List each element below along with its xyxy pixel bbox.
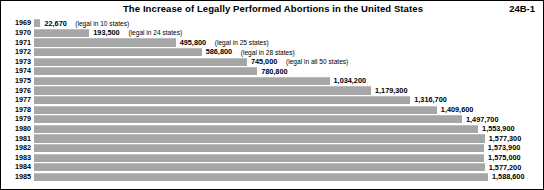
year-label: 1982 [7, 143, 31, 152]
bar [34, 96, 410, 104]
year-label: 1979 [7, 114, 31, 123]
chart-title: The Increase of Legally Performed Aborti… [1, 3, 544, 14]
bar-value-label: 1,034,200 [334, 76, 366, 85]
bar-row: 1970193,500(legal in 24 states) [1, 28, 544, 38]
bar-row: 19811,577,300 [1, 133, 544, 143]
bar-value-label: 22,670 [44, 19, 66, 28]
bar-row: 196922,670(legal in 10 states) [1, 18, 544, 28]
year-label: 1980 [7, 124, 31, 133]
bar [34, 77, 330, 85]
bar [34, 173, 488, 181]
bar-value-label: 1,577,200 [489, 163, 521, 172]
bar-row: 19751,034,200 [1, 76, 544, 86]
year-label: 1978 [7, 105, 31, 114]
year-label: 1972 [7, 47, 31, 56]
bar-row: 19781,409,600 [1, 104, 544, 114]
bar-annotation-label: (legal in 28 states) [241, 48, 295, 57]
bar-row: 19801,553,900 [1, 124, 544, 134]
year-label: 1984 [7, 162, 31, 171]
bar-row: 19791,497,700 [1, 114, 544, 124]
year-label: 1970 [7, 28, 31, 37]
bar-row: 1973745,000(legal in all 50 states) [1, 56, 544, 66]
bar [34, 29, 89, 37]
bar-row: 19821,573,900 [1, 143, 544, 153]
bar [34, 106, 437, 114]
bar-annotation-label: (legal in 25 states) [215, 38, 269, 47]
bar-row: 1974780,800 [1, 66, 544, 76]
year-label: 1976 [7, 86, 31, 95]
bar-value-label: 1,575,000 [488, 153, 520, 162]
year-label: 1974 [7, 66, 31, 75]
bar [34, 134, 485, 142]
year-label: 1969 [7, 18, 31, 27]
bar-rows: 196922,670(legal in 10 states)1970193,50… [1, 18, 544, 181]
bar-annotation-label: (legal in 10 states) [75, 19, 129, 28]
year-label: 1975 [7, 76, 31, 85]
bar-value-label: 1,573,900 [488, 143, 520, 152]
bar-value-label: 586,800 [206, 47, 232, 56]
bar-value-label: 1,497,700 [466, 115, 498, 124]
bar [34, 19, 40, 27]
bar-row: 1972586,800(legal in 28 states) [1, 47, 544, 57]
bar [34, 125, 478, 133]
bar [34, 58, 247, 66]
bar [34, 48, 202, 56]
bar [34, 154, 484, 162]
bar-value-label: 745,000 [251, 57, 277, 66]
bar-row: 19771,316,700 [1, 95, 544, 105]
bar-annotation-label: (legal in all 50 states) [286, 57, 348, 66]
bar [34, 115, 462, 123]
year-label: 1971 [7, 38, 31, 47]
bar [34, 163, 485, 171]
year-label: 1981 [7, 134, 31, 143]
bar-row: 19841,577,200 [1, 162, 544, 172]
chart-container: The Increase of Legally Performed Aborti… [0, 0, 544, 190]
chart-header: The Increase of Legally Performed Aborti… [1, 3, 544, 16]
bar [34, 38, 176, 46]
bar-annotation-label: (legal in 24 states) [128, 28, 182, 37]
bar-value-label: 1,553,900 [482, 124, 514, 133]
year-label: 1973 [7, 57, 31, 66]
bar-value-label: 193,500 [93, 28, 119, 37]
bar-row: 19831,575,000 [1, 152, 544, 162]
bar [34, 144, 484, 152]
bar [34, 86, 371, 94]
year-label: 1977 [7, 95, 31, 104]
bar-value-label: 495,800 [180, 38, 206, 47]
bar-value-label: 1,409,600 [441, 105, 473, 114]
year-label: 1985 [7, 172, 31, 181]
bar-row: 19761,179,300 [1, 85, 544, 95]
bar [34, 67, 257, 75]
bar-row: 1971495,800(legal in 25 states) [1, 37, 544, 47]
bar-value-label: 780,800 [261, 67, 287, 76]
bar-value-label: 1,577,300 [489, 134, 521, 143]
bar-value-label: 1,316,700 [414, 95, 446, 104]
year-label: 1983 [7, 153, 31, 162]
bar-row: 19851,588,600 [1, 172, 544, 182]
bar-value-label: 1,588,600 [492, 172, 524, 181]
bar-value-label: 1,179,300 [375, 86, 407, 95]
plate-code-label: 24B-1 [509, 3, 535, 14]
